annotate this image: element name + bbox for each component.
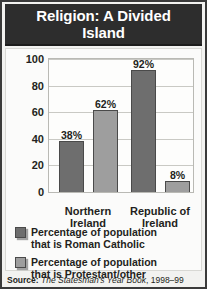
bar-value-northern-ireland-protestant: 62%	[95, 98, 116, 110]
chart-panel: 100 80 60 40 20 0 38% 62%	[5, 48, 202, 271]
source-prefix: Source:	[7, 275, 39, 285]
y-tick-80: 80	[32, 80, 44, 92]
source-note: Source: The Statesman's Year Book, 1998–…	[7, 275, 184, 285]
gridline-60: 60	[49, 112, 193, 113]
source-book-title: The Statesman's Year Book	[41, 275, 146, 285]
page-title: Religion: A Divided Island	[5, 7, 202, 41]
legend-swatch-icon-roman-catholic	[15, 227, 26, 238]
legend-swatch-icon-protestant-other	[15, 257, 26, 268]
source-edition: , 1998–99	[146, 275, 184, 285]
bar-northern-ireland-protestant: 62%	[93, 110, 118, 192]
bar-republic-of-ireland-catholic: 92%	[131, 70, 156, 192]
gridline-0: 0	[49, 192, 193, 193]
y-tick-20: 20	[32, 159, 44, 171]
bar-value-republic-of-ireland-catholic: 92%	[133, 58, 154, 70]
y-tick-0: 0	[38, 186, 44, 198]
legend-item-roman-catholic: Percentage of population that is Roman C…	[15, 226, 201, 250]
plot-area: 100 80 60 40 20 0 38% 62%	[48, 58, 194, 193]
bar-northern-ireland-catholic: 38%	[59, 141, 84, 192]
y-tick-40: 40	[32, 133, 44, 145]
gridline-100: 100	[49, 59, 193, 60]
bar-republic-of-ireland-protestant: 8%	[165, 181, 190, 192]
gridline-80: 80	[49, 86, 193, 87]
bar-value-republic-of-ireland-protestant: 8%	[170, 169, 185, 181]
chart-figure: Religion: A Divided Island 100 80 60 40 …	[0, 0, 207, 289]
legend-label-roman-catholic: Percentage of population that is Roman C…	[31, 226, 157, 250]
bar-value-northern-ireland-catholic: 38%	[61, 129, 82, 141]
chart-title-banner: Religion: A Divided Island	[5, 4, 202, 46]
y-tick-100: 100	[26, 53, 44, 65]
y-tick-60: 60	[32, 106, 44, 118]
